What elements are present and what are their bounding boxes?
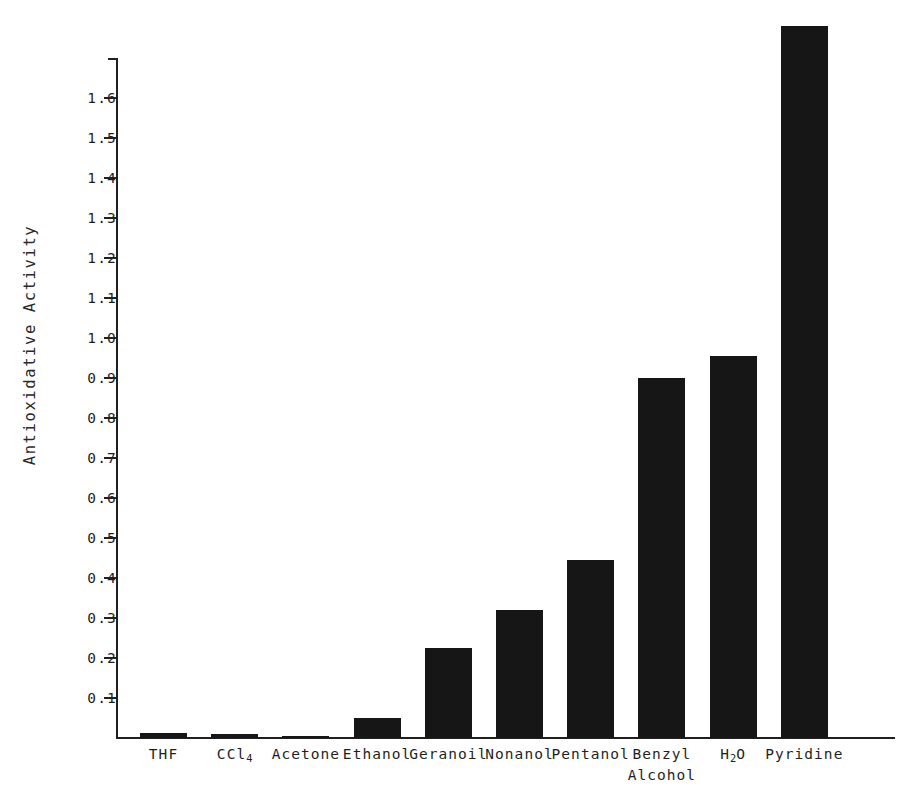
bar-ethanol [354,718,401,738]
bar-ccl4 [211,734,258,738]
x-axis-labels: THFCCl4AcetoneEthanolGeranoilNonanolPent… [0,744,912,806]
bar-benzyl-alcohol [638,378,685,738]
bar-geranoil [425,648,472,738]
bar-thf [140,733,187,738]
bar-pentanol [567,560,614,738]
bars-layer [0,0,912,738]
bar-pyridine [781,26,828,738]
bar-chart-figure: Antioxidative Activity 0.10.20.30.40.50.… [0,0,912,808]
x-label-pyridine: Pyridine [734,744,874,765]
bar-nonanol [496,610,543,738]
bar-acetone [282,736,329,738]
bar-h2o [710,356,757,738]
